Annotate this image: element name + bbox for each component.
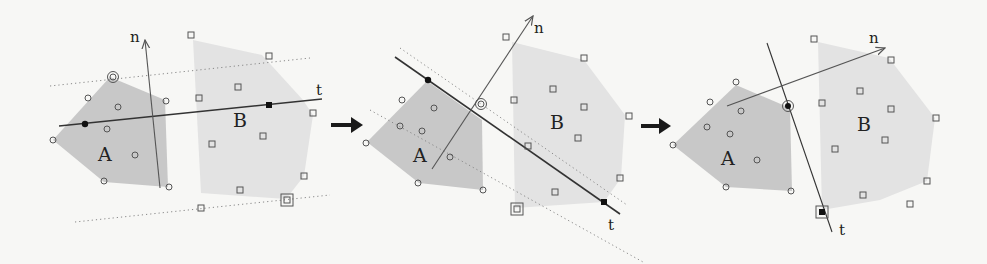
arrow-right-icon: [351, 117, 363, 133]
point-b-marker: [266, 53, 272, 59]
axis-t-label: t: [316, 81, 322, 99]
normal-n-label: n: [534, 19, 544, 37]
panel-step-2: A B t n: [363, 16, 643, 262]
point-b-marker: [907, 201, 913, 207]
separation-diagram: A B t n: [0, 0, 987, 264]
transition-arrow-1: [331, 117, 363, 133]
support-point-b: [601, 199, 607, 205]
hull-b: [512, 42, 625, 208]
point-a-marker: [399, 97, 405, 103]
normal-n-label: n: [869, 29, 879, 47]
support-point-a: [82, 121, 88, 127]
set-b-label: B: [233, 109, 247, 131]
axis-t-label: t: [839, 221, 845, 239]
point-b-marker: [503, 34, 509, 40]
support-point-a: [425, 77, 431, 83]
point-a-marker: [363, 140, 369, 146]
hull-b: [193, 40, 313, 199]
arrow-right-icon: [641, 124, 661, 128]
point-a-marker: [478, 101, 484, 107]
normal-n-label: n: [130, 28, 140, 46]
hull-b: [818, 42, 935, 210]
point-a-marker: [476, 99, 487, 110]
arrow-right-icon: [331, 123, 353, 127]
point-a-marker: [707, 99, 713, 105]
set-a-label: A: [97, 143, 112, 165]
point-a-marker: [85, 95, 91, 101]
point-b-marker: [188, 32, 194, 38]
point-a-marker: [733, 79, 739, 85]
support-point-a: [785, 103, 791, 109]
set-a-label: A: [412, 144, 427, 166]
point-a-marker: [166, 184, 172, 190]
lower-bound-line: [75, 195, 330, 222]
hull-a: [367, 81, 483, 190]
set-b-label: B: [857, 113, 871, 135]
set-a-label: A: [720, 147, 735, 169]
point-b-marker: [811, 36, 817, 42]
support-point-b: [266, 102, 272, 108]
transition-arrow-2: [641, 118, 671, 134]
point-b-marker: [198, 205, 204, 211]
set-b-label: B: [550, 111, 564, 133]
support-point-b: [819, 209, 825, 215]
panel-step-1: A B t n: [50, 28, 330, 222]
hull-a: [673, 85, 792, 191]
panel-step-3: A B t n: [670, 29, 939, 239]
axis-t-label: t: [608, 216, 614, 234]
point-b-marker: [626, 113, 632, 119]
arrow-right-icon: [659, 118, 671, 134]
